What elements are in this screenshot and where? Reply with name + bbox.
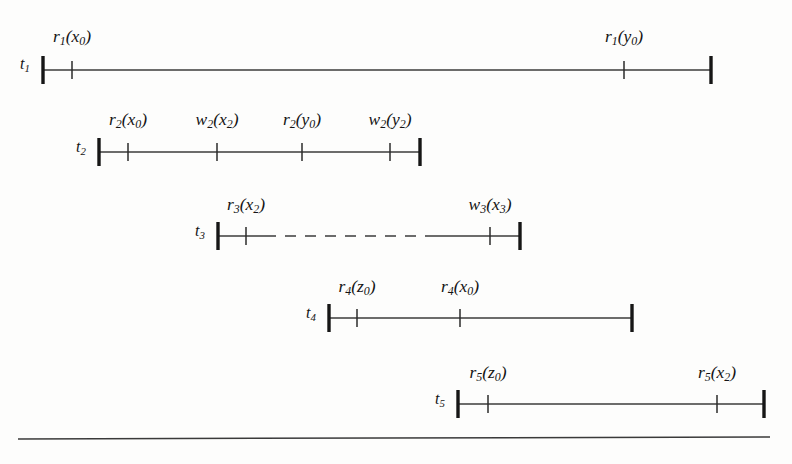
event-label-t2-3: w2(y2): [368, 111, 411, 129]
event-label-t2-1: w2(x2): [195, 111, 238, 129]
bottom-rule: [18, 437, 770, 439]
timeline-t2: [99, 138, 420, 166]
event-label-t3-0: r3(x2): [227, 196, 265, 214]
event-label-t1-1: r1(y0): [605, 28, 643, 46]
event-label-t3-1: w3(x3): [468, 196, 511, 214]
timeline-t3: [218, 222, 520, 250]
event-label-t4-0: r4(z0): [338, 278, 375, 296]
row-label-t5: t5: [435, 391, 445, 407]
row-label-t4: t4: [306, 305, 316, 321]
row-label-t1: t1: [20, 56, 30, 72]
timeline-t5: [458, 390, 764, 418]
event-label-t5-1: r5(x2): [698, 364, 736, 382]
event-label-t2-0: r2(x0): [109, 111, 147, 129]
event-label-t1-0: r1(x0): [53, 28, 91, 46]
event-label-t2-2: r2(y0): [283, 111, 321, 129]
timeline-t4: [329, 304, 632, 332]
event-label-t4-1: r4(x0): [441, 278, 479, 296]
timeline-t1: [43, 56, 711, 84]
row-label-t3: t3: [195, 223, 205, 239]
figure-canvas: t1r1(x0)r1(y0)t2r2(x0)w2(x2)r2(y0)w2(y2)…: [0, 0, 792, 464]
timeline-diagram-svg: [0, 0, 792, 464]
event-label-t5-0: r5(z0): [469, 364, 506, 382]
row-label-t2: t2: [76, 139, 86, 155]
